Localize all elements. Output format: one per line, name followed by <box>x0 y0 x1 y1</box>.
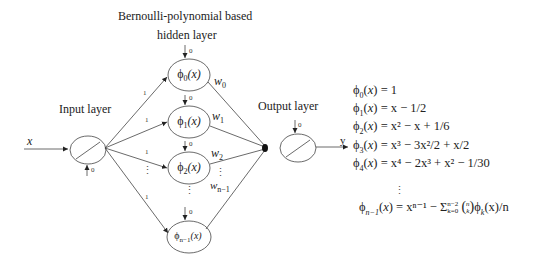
output-variable: y <box>340 134 346 146</box>
input-bias-label: 0 <box>91 166 95 174</box>
hidden-layer-title-line2: hidden layer <box>157 28 217 43</box>
output-weight-2: w2 <box>211 146 223 162</box>
output-weight-ellipsis: ⋮ <box>215 170 226 174</box>
input-weight-ellipsis: ⋮ <box>142 168 153 172</box>
hidden-node-0: ϕ0(x) <box>168 67 210 83</box>
hidden-bias-label-1: 0 <box>189 94 193 102</box>
network-diagram-canvas <box>0 0 534 256</box>
hidden-node-2: ϕ2(x) <box>168 160 210 176</box>
input-weight-1: 1 <box>145 116 149 124</box>
hidden-bias-label-2: 0 <box>189 140 193 148</box>
hidden-node-n-minus-1: ϕn−1(x) <box>167 230 209 244</box>
input-weight-0: 1 <box>143 89 147 97</box>
equation-ellipsis: ⋮ <box>394 188 405 192</box>
hidden-bias-label-0: 0 <box>189 47 193 55</box>
hidden-node-1: ϕ1(x) <box>168 114 210 130</box>
input-node <box>70 136 106 164</box>
output-weight-n-minus-1: wn−1 <box>210 179 230 194</box>
equation-phi-4: ϕ4(x) = x⁴ − 2x³ + x² − 1/30 <box>353 156 490 173</box>
output-weight-0: w0 <box>214 74 226 90</box>
hidden-node-ellipsis: ⋮ <box>184 188 195 192</box>
equation-phi-3: ϕ3(x) = x³ − 3x²/2 + x/2 <box>353 138 469 155</box>
output-layer-label: Output layer <box>258 99 318 114</box>
input-weight-3: 1 <box>145 193 149 201</box>
hidden-bias-label-3: 0 <box>189 208 193 216</box>
hidden-layer-title-line1: Bernoulli-polynomial based <box>118 9 252 24</box>
equation-phi-general: ϕn−1(x) = xⁿ⁻¹ − Σn−2k=0 (nk)ϕk(x)/n <box>359 199 509 217</box>
output-weight-1: w1 <box>212 109 224 125</box>
output-bias-label: 0 <box>298 121 302 129</box>
equation-phi-0: ϕ0(x) = 1 <box>353 83 397 100</box>
equation-phi-1: ϕ1(x) = x − 1/2 <box>353 101 426 118</box>
input-variable: x <box>27 134 32 149</box>
equation-phi-2: ϕ2(x) = x² − x + 1/6 <box>353 119 450 136</box>
input-layer-label: Input layer <box>59 102 111 117</box>
summation-dot <box>262 144 268 152</box>
input-weight-2: 1 <box>145 148 149 156</box>
